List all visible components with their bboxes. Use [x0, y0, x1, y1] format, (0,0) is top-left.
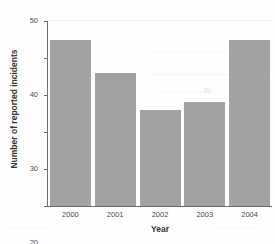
y-tick-mark: 0	[44, 206, 48, 207]
bar[interactable]	[95, 73, 136, 206]
x-axis-line	[47, 206, 272, 207]
y-tick-label: 20	[30, 239, 38, 244]
plot-area: 01020304050 20002001200220032004	[48, 21, 272, 206]
bar[interactable]	[229, 40, 270, 207]
bar-chart: Number of reported incidents 01020304050…	[0, 0, 275, 244]
y-tick-label: 50	[30, 17, 38, 25]
bar[interactable]	[50, 40, 91, 207]
bar-group: 20002001200220032004	[48, 21, 272, 206]
x-tick-label: 2000	[50, 211, 91, 219]
y-tick-label: 30	[30, 165, 38, 173]
y-axis-title: Number of reported incidents	[9, 29, 19, 189]
x-axis-title: Year	[48, 224, 272, 234]
y-tick-label: 40	[30, 91, 38, 99]
bar[interactable]	[184, 102, 225, 206]
x-tick-label: 2001	[95, 211, 136, 219]
bar[interactable]	[140, 110, 181, 206]
x-tick-label: 2003	[184, 211, 225, 219]
scan-artifact-line	[8, 228, 48, 229]
x-tick-label: 2004	[229, 211, 270, 219]
x-tick-label: 2002	[140, 211, 181, 219]
